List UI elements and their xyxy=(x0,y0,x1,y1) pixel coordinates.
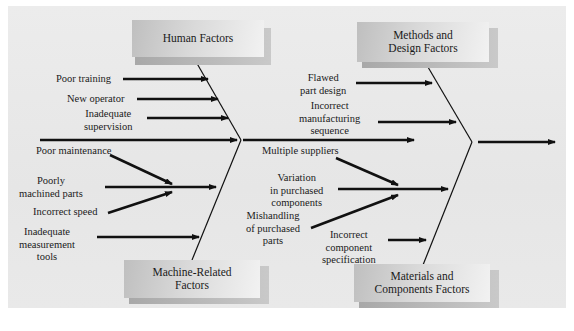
category-title-line1: Methods and xyxy=(393,29,453,42)
cause-poorly-machined-parts: Poorly machined parts xyxy=(19,175,83,200)
cause-inadequate-measurement-tools: Inadequate measurement tools xyxy=(19,226,75,264)
cause-incorrect-component-specification: Incorrect component specification xyxy=(322,229,376,267)
category-title-line2: Design Factors xyxy=(388,42,457,55)
cause-poor-maintenance: Poor maintenance xyxy=(36,145,112,158)
cause-incorrect-speed: Incorrect speed xyxy=(33,206,97,219)
cause-flawed-part-design: Flawed part design xyxy=(300,72,346,97)
cause-poor-training: Poor training xyxy=(56,73,111,86)
cause-new-operator: New operator xyxy=(67,93,124,106)
cause-incorrect-manufacturing-sequence: Incorrect manufacturing sequence xyxy=(299,100,360,138)
cause-inadequate-supervision: Inadequate supervision xyxy=(84,108,132,133)
cause-variation-purchased-components: Variation in purchased components xyxy=(270,172,323,210)
cause-mishandling-purchased-parts: Mishandling of purchased parts xyxy=(246,210,300,248)
category-title-line1: Machine-Related xyxy=(152,266,231,279)
category-title-line1: Materials and xyxy=(391,270,454,283)
category-title: Human Factors xyxy=(163,32,234,45)
spine xyxy=(40,140,555,142)
cause-multiple-suppliers: Multiple suppliers xyxy=(262,145,339,158)
category-title-line2: Factors xyxy=(175,279,209,292)
category-title-line2: Components Factors xyxy=(375,283,470,296)
